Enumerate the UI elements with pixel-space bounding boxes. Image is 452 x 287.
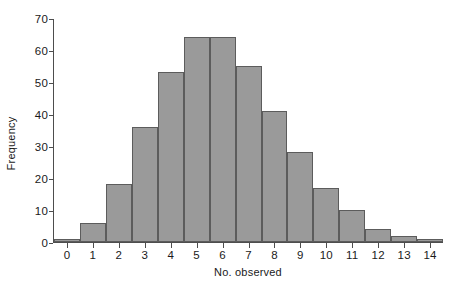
x-tick-label: 1 <box>80 249 106 265</box>
x-tick-label: 5 <box>184 249 210 265</box>
bar <box>132 127 158 242</box>
x-tick-mark <box>145 243 146 248</box>
x-tick-slot <box>106 243 132 248</box>
bar <box>184 37 210 242</box>
bar-slot <box>54 19 80 242</box>
x-tick-mark <box>430 243 431 248</box>
x-tick-mark <box>197 243 198 248</box>
x-tick-slot <box>54 243 80 248</box>
y-tick-label: 50 <box>22 77 48 89</box>
x-tick-mark <box>326 243 327 248</box>
x-tick-slot <box>132 243 158 248</box>
y-tick-mark <box>49 19 53 20</box>
bar-series <box>54 19 443 242</box>
histogram-figure: Frequency 010203040506070 01234567891011… <box>0 0 452 287</box>
x-tick-mark <box>378 243 379 248</box>
bar <box>417 239 443 242</box>
y-tick-label: 60 <box>22 45 48 57</box>
bar-slot <box>158 19 184 242</box>
y-tick-mark <box>49 115 53 116</box>
x-tick-slot <box>262 243 288 248</box>
x-tick-slot <box>339 243 365 248</box>
x-tick-slot <box>313 243 339 248</box>
x-tick-label: 13 <box>391 249 417 265</box>
x-tick-label: 8 <box>262 249 288 265</box>
bar <box>106 184 132 242</box>
bar-slot <box>365 19 391 242</box>
bar-slot <box>417 19 443 242</box>
bar-slot <box>132 19 158 242</box>
x-tick-label: 14 <box>417 249 443 265</box>
x-tick-label: 10 <box>313 249 339 265</box>
x-tick-mark <box>93 243 94 248</box>
x-tick-slot <box>236 243 262 248</box>
x-tick-label: 9 <box>287 249 313 265</box>
x-tick-label: 2 <box>106 249 132 265</box>
x-tick-mark <box>119 243 120 248</box>
x-tick-slot <box>391 243 417 248</box>
bar <box>365 229 391 242</box>
bar <box>287 152 313 242</box>
x-tick-mark <box>274 243 275 248</box>
x-tick-label: 0 <box>54 249 80 265</box>
bar-slot <box>339 19 365 242</box>
plot-area <box>53 19 443 243</box>
y-tick-mark <box>49 147 53 148</box>
y-tick-label: 10 <box>22 205 48 217</box>
x-tick-label: 6 <box>210 249 236 265</box>
bar <box>210 37 236 242</box>
x-axis-tick-marks <box>54 243 443 248</box>
x-tick-slot <box>80 243 106 248</box>
x-tick-label: 4 <box>158 249 184 265</box>
x-tick-label: 12 <box>365 249 391 265</box>
y-axis-title: Frequency <box>0 0 22 287</box>
x-tick-mark <box>67 243 68 248</box>
bar-slot <box>106 19 132 242</box>
y-tick-label: 0 <box>22 237 48 249</box>
x-axis-title: No. observed <box>53 266 443 278</box>
y-tick-mark <box>49 243 53 244</box>
y-tick-mark <box>49 179 53 180</box>
bar-slot <box>313 19 339 242</box>
x-tick-label: 3 <box>132 249 158 265</box>
bar-slot <box>262 19 288 242</box>
x-tick-mark <box>171 243 172 248</box>
y-axis-tick-labels: 010203040506070 <box>22 0 48 287</box>
bar-slot <box>210 19 236 242</box>
bar-slot <box>287 19 313 242</box>
bar <box>158 72 184 242</box>
bar <box>313 188 339 242</box>
bar-slot <box>184 19 210 242</box>
y-tick-label: 20 <box>22 173 48 185</box>
x-tick-mark <box>249 243 250 248</box>
bar <box>262 111 288 242</box>
x-tick-mark <box>223 243 224 248</box>
x-tick-mark <box>404 243 405 248</box>
x-tick-slot <box>417 243 443 248</box>
y-tick-mark <box>49 211 53 212</box>
bar <box>80 223 106 242</box>
y-tick-label: 40 <box>22 109 48 121</box>
y-tick-label: 70 <box>22 13 48 25</box>
bar <box>339 210 365 242</box>
x-axis-tick-labels: 01234567891011121314 <box>54 249 443 265</box>
bar <box>391 236 417 242</box>
x-tick-label: 11 <box>339 249 365 265</box>
x-tick-slot <box>158 243 184 248</box>
bar-slot <box>236 19 262 242</box>
y-tick-mark <box>49 83 53 84</box>
bar-slot <box>391 19 417 242</box>
x-tick-slot <box>287 243 313 248</box>
y-tick-label: 30 <box>22 141 48 153</box>
bar <box>54 239 80 242</box>
bar-slot <box>80 19 106 242</box>
x-tick-mark <box>352 243 353 248</box>
x-tick-mark <box>300 243 301 248</box>
x-tick-slot <box>210 243 236 248</box>
y-tick-mark <box>49 51 53 52</box>
x-tick-label: 7 <box>236 249 262 265</box>
x-tick-slot <box>365 243 391 248</box>
x-tick-slot <box>184 243 210 248</box>
bar <box>236 66 262 242</box>
